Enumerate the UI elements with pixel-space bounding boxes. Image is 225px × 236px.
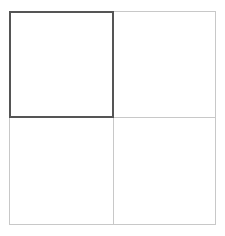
- image-grid: [9, 11, 216, 225]
- grid-cell-top-right[interactable]: [113, 12, 215, 117]
- grid-cell-top-left[interactable]: [10, 12, 113, 117]
- grid-cell-bottom-left[interactable]: [10, 117, 113, 224]
- grid-cell-bottom-right[interactable]: [113, 117, 215, 224]
